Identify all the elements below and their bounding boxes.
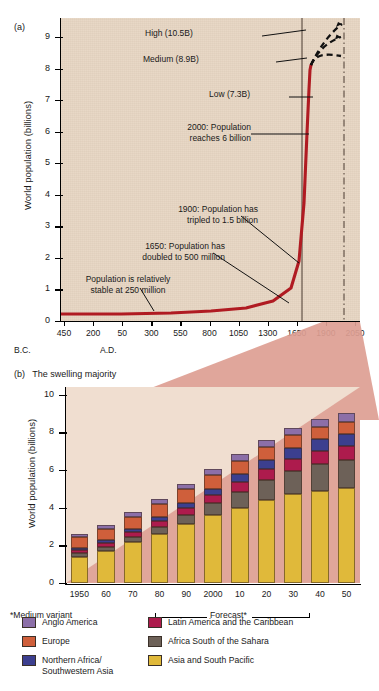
- stacked-bar: [177, 387, 195, 583]
- legend-label: Latin America and the Caribbean: [168, 617, 293, 628]
- panel-a-y-tick: [55, 258, 63, 259]
- projection-low-line: [311, 55, 341, 65]
- annotation-1650-line1: 1650: Population has: [113, 241, 225, 252]
- panel-a-y-tick-label: 2: [36, 252, 50, 262]
- bar-segment-europe: [204, 475, 222, 489]
- panel-b-y-tick-label: 10: [38, 389, 54, 399]
- panel-b-plot-area: [66, 387, 360, 583]
- panel-a-y-tick-label: 3: [36, 220, 50, 230]
- panel-a-y-tick-label: 7: [36, 94, 50, 104]
- bar-segment-asia-and-south-pacific: [231, 508, 249, 583]
- legend-label: Asia and South Pacific: [168, 655, 254, 666]
- bar-segment-africa-south-of-the-sahara: [177, 515, 195, 524]
- legend-swatch-icon: [148, 617, 162, 628]
- panel-b-y-tick-label: 8: [38, 426, 54, 436]
- legend-item[interactable]: Latin America and the Caribbean: [148, 617, 293, 628]
- stacked-bar: [97, 387, 115, 583]
- bar-segment-anglo-america: [204, 469, 222, 475]
- legend-item[interactable]: Europe: [22, 636, 70, 647]
- bar-segment-africa-south-of-the-sahara: [71, 553, 89, 556]
- legend-item[interactable]: Africa South of the Sahara: [148, 636, 269, 647]
- panel-b-y-tick: [59, 583, 67, 584]
- annotation-medium: Medium (8.9B): [143, 54, 199, 64]
- panel-a-y-tick: [55, 69, 63, 70]
- bar-segment-northern-africa-southwestern-asia: [71, 548, 89, 550]
- stacked-bar: [338, 387, 356, 583]
- bar-segment-europe: [284, 435, 302, 448]
- bar-segment-latin-america-and-the-caribbean: [204, 495, 222, 503]
- bar-segment-northern-africa-southwestern-asia: [338, 434, 356, 446]
- legend-item[interactable]: Anglo America: [22, 617, 97, 628]
- bar-segment-europe: [338, 422, 356, 434]
- panel-a-y-axis: [60, 18, 61, 322]
- stacked-bar: [258, 387, 276, 583]
- panel-b-y-tick-label: 6: [38, 464, 54, 474]
- bar-segment-europe: [231, 461, 249, 475]
- bar-segment-asia-and-south-pacific: [338, 488, 356, 583]
- panel-b-y-tick-label: 2: [38, 539, 54, 549]
- panel-a-plot-area: High (10.5B) Medium (8.9B) Low (7.3B) 20…: [61, 18, 360, 321]
- legend-swatch-icon: [22, 636, 36, 647]
- projection-medium-line: [311, 37, 341, 65]
- stacked-bar: [231, 387, 249, 583]
- legend-item[interactable]: Asia and South Pacific: [148, 655, 254, 666]
- panel-a-y-tick-label: 8: [36, 63, 50, 73]
- bar-segment-anglo-america: [124, 512, 142, 516]
- legend-label: Africa South of the Sahara: [168, 636, 269, 647]
- annotation-high: High (10.5B): [145, 28, 193, 38]
- panel-b-y-tick: [59, 395, 67, 396]
- bar-segment-latin-america-and-the-caribbean: [151, 521, 169, 527]
- bar-segment-africa-south-of-the-sahara: [231, 492, 249, 507]
- annotation-1900-line1: 1900: Population has: [153, 204, 258, 215]
- panel-b-y-tick: [59, 470, 67, 471]
- stacked-bar: [204, 387, 222, 583]
- legend-swatch-icon: [148, 636, 162, 647]
- panel-a-tag: (a): [14, 22, 25, 32]
- bar-segment-northern-africa-southwestern-asia: [151, 517, 169, 521]
- legend-item[interactable]: Northern Africa/Southwestern Asia: [22, 655, 113, 676]
- bar-segment-asia-and-south-pacific: [151, 534, 169, 583]
- leader-high: [262, 30, 306, 36]
- bar-segment-latin-america-and-the-caribbean: [258, 469, 276, 480]
- bar-segment-anglo-america: [151, 499, 169, 504]
- panel-a-y-tick: [55, 195, 63, 196]
- stacked-bar: [284, 387, 302, 583]
- annotation-stable: Population is relatively stable at 250 m…: [73, 274, 183, 296]
- bar-segment-anglo-america: [284, 428, 302, 436]
- bar-segment-northern-africa-southwestern-asia: [231, 474, 249, 482]
- bar-segment-latin-america-and-the-caribbean: [71, 550, 89, 553]
- bar-segment-latin-america-and-the-caribbean: [311, 451, 329, 464]
- panel-b-y-axis: [65, 387, 66, 584]
- bar-segment-africa-south-of-the-sahara: [338, 460, 356, 488]
- panel-a-y-tick: [55, 37, 63, 38]
- bar-segment-northern-africa-southwestern-asia: [284, 448, 302, 459]
- panel-b-title: The swelling majority: [32, 369, 116, 379]
- stacked-bar: [71, 387, 89, 583]
- bar-segment-africa-south-of-the-sahara: [124, 537, 142, 542]
- bar-segment-anglo-america: [231, 454, 249, 461]
- bar-segment-asia-and-south-pacific: [177, 524, 195, 583]
- bar-segment-anglo-america: [311, 419, 329, 427]
- stacked-bar: [151, 387, 169, 583]
- bar-segment-asia-and-south-pacific: [311, 491, 329, 583]
- bar-segment-anglo-america: [258, 440, 276, 447]
- panel-a-y-tick: [55, 132, 63, 133]
- panel-b-x-axis: [65, 584, 361, 585]
- bar-segment-asia-and-south-pacific: [97, 551, 115, 583]
- bar-segment-anglo-america: [177, 484, 195, 489]
- bar-segment-anglo-america: [338, 413, 356, 421]
- panel-a-y-tick-label: 5: [36, 157, 50, 167]
- bar-segment-africa-south-of-the-sahara: [284, 471, 302, 495]
- panel-a-y-tick: [55, 163, 63, 164]
- projection-medium-arrow: [335, 35, 341, 40]
- bar-segment-africa-south-of-the-sahara: [258, 480, 276, 500]
- bar-segment-africa-south-of-the-sahara: [204, 503, 222, 515]
- bar-segment-anglo-america: [71, 534, 89, 537]
- bar-segment-latin-america-and-the-caribbean: [231, 482, 249, 492]
- panel-a-y-tick-label: 1: [36, 283, 50, 293]
- bar-segment-northern-africa-southwestern-asia: [177, 503, 195, 508]
- legend-label: Anglo America: [42, 617, 97, 628]
- bar-segment-northern-africa-southwestern-asia: [258, 460, 276, 469]
- annotation-stable-line2: stable at 250 million: [73, 285, 183, 296]
- bar-segment-asia-and-south-pacific: [71, 557, 89, 583]
